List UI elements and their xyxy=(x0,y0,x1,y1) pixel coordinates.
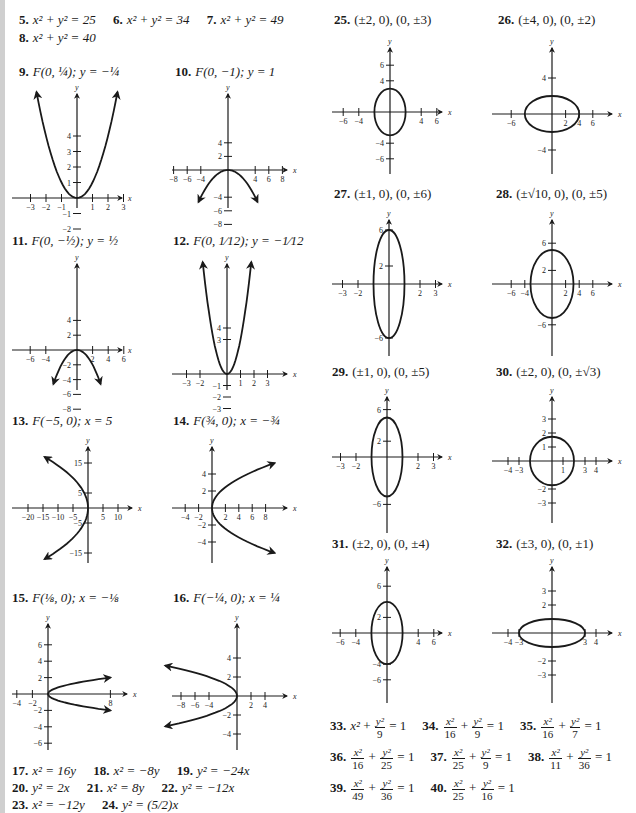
y-axis-label: y xyxy=(386,209,391,218)
y-tick-label: 3 xyxy=(542,587,546,596)
graph-svg: xy−4−3134−3−2123 xyxy=(490,385,620,525)
y-tick-label: 2 xyxy=(379,262,383,271)
x-tick-label: −4 xyxy=(197,175,206,184)
graph-31: xy−6−446−6−426 xyxy=(330,555,450,705)
y-tick-label: 2 xyxy=(67,331,71,340)
x-tick-label: −6 xyxy=(26,355,35,364)
x-tick-label: 2 xyxy=(249,701,253,710)
graph-label-30: 30.(±2, 0), (0, ±√3) xyxy=(496,364,600,380)
answer-number: 17. xyxy=(12,763,28,778)
x-tick-label: 4 xyxy=(594,638,598,647)
fraction: y²9 xyxy=(375,715,385,740)
graph-label-9: 9.F(0, ¼); y = −¼ xyxy=(19,64,119,80)
fraction: x²16 xyxy=(351,746,364,771)
equation-answer: 39.x²49 + y²36 = 1 xyxy=(330,780,414,795)
y-tick-label: −6 xyxy=(372,676,381,685)
fraction: x²16 xyxy=(541,715,554,740)
answer-number: 5. xyxy=(19,12,29,27)
graph-svg: xy−8−6−4468−8−6−424 xyxy=(170,82,295,210)
label-number: 29. xyxy=(332,364,348,379)
x-tick-label: 8 xyxy=(280,175,284,184)
equation-answer: 36.x²16 + y²25 = 1 xyxy=(330,749,414,764)
label-number: 14. xyxy=(173,413,189,428)
x-axis-label: x xyxy=(447,453,452,462)
graph-label-29: 29.(±1, 0), (0, ±5) xyxy=(332,364,429,380)
label-text: (±2, 0), (0, ±√3) xyxy=(516,364,600,379)
x-axis-label: x xyxy=(292,692,297,701)
label-number: 31. xyxy=(332,536,348,551)
y-tick-label: 4 xyxy=(217,324,221,333)
y-tick-label: 2 xyxy=(542,429,546,438)
x-axis-label: x xyxy=(292,370,297,379)
y-axis-label: y xyxy=(234,613,239,622)
answer-text: x² = −12y xyxy=(32,797,84,812)
label-number: 28. xyxy=(496,186,512,201)
answer-number: 24. xyxy=(102,797,118,812)
x-tick-label: 1 xyxy=(91,203,95,212)
label-number: 12. xyxy=(173,233,189,248)
x-tick-label: −4 xyxy=(13,699,22,708)
x-tick-label: 10 xyxy=(114,513,122,522)
x-tick-label: 4 xyxy=(577,289,581,298)
y-tick-label: 6 xyxy=(380,61,384,70)
x-tick-label: 5 xyxy=(101,513,105,522)
graph-svg: xy−3−2−1123−2−11234 xyxy=(10,82,130,210)
label-text: (±1, 0), (0, ±6) xyxy=(354,186,431,201)
y-tick-label: 5 xyxy=(78,489,82,498)
y-tick-label: 2 xyxy=(38,674,42,683)
y-tick-label: 2 xyxy=(227,673,231,682)
x-tick-label: 2 xyxy=(252,379,256,388)
y-tick-label: −6 xyxy=(213,207,222,216)
graph-svg: xy−4−22468−4−224 xyxy=(170,435,295,565)
graph-svg: xy−3−223−626 xyxy=(330,385,450,535)
graph-label-26: 26.(±4, 0), (0, ±2) xyxy=(498,12,595,28)
x-tick-label: 4 xyxy=(253,175,257,184)
y-axis-label: y xyxy=(549,556,554,565)
x-tick-label: −6 xyxy=(507,289,516,298)
x-tick-label: −15 xyxy=(37,513,50,522)
x-tick-label: 8 xyxy=(108,699,112,708)
answers-39-40: 39.x²49 + y²36 = 140.x²25 + y²16 = 1 xyxy=(330,775,531,802)
graph-label-31: 31.(±2, 0), (0, ±4) xyxy=(332,536,429,552)
x-tick-label: 4 xyxy=(419,117,423,126)
x-tick-label: 3 xyxy=(434,289,438,298)
x-tick-label: 3 xyxy=(583,466,587,475)
y-axis-label: y xyxy=(549,386,554,395)
y-tick-label: 2 xyxy=(542,601,546,610)
answers-17-19: 17.x² = 16y 18.x² = −8y 19.y² = −24x xyxy=(12,763,263,779)
y-tick-label: −4 xyxy=(213,193,222,202)
graph-27: xy−3−223−626 xyxy=(330,208,450,358)
y-tick-label: 3 xyxy=(67,148,71,157)
graph-svg: xy−3−2123−3−2−134 xyxy=(170,252,295,392)
label-text: F(−¼, 0); x = ¼ xyxy=(193,590,280,605)
x-axis-label: x xyxy=(127,194,132,203)
x-tick-label: −4 xyxy=(352,638,361,647)
label-text: (±√10, 0), (0, ±5) xyxy=(516,186,607,201)
y-tick-label: 2 xyxy=(377,437,381,446)
answer-text: y² = −24x xyxy=(197,763,249,778)
y-axis-label: y xyxy=(85,436,90,445)
graph-25: xy−6−446−6−446 xyxy=(330,36,450,176)
y-tick-label: −4 xyxy=(222,730,231,739)
graph-label-25: 25.(±2, 0), (0, ±3) xyxy=(334,12,431,28)
fraction: x²25 xyxy=(452,777,465,802)
x-tick-label: −6 xyxy=(183,175,192,184)
graph-label-27: 27.(±1, 0), (0, ±6) xyxy=(334,186,431,202)
label-number: 30. xyxy=(496,364,512,379)
x-tick-label: 8 xyxy=(264,513,268,522)
y-tick-label: −8 xyxy=(62,405,71,414)
x-axis-label: x xyxy=(617,280,622,289)
answer-number: 8. xyxy=(19,30,29,45)
answer-number: 7. xyxy=(207,12,217,27)
y-tick-label: −1 xyxy=(62,210,71,219)
y-axis-label: y xyxy=(224,253,229,262)
y-tick-label: −2 xyxy=(62,225,71,234)
fraction: x²25 xyxy=(452,746,465,771)
y-tick-label: 1 xyxy=(67,179,71,188)
x-tick-label: 4 xyxy=(416,638,420,647)
y-tick-label: 4 xyxy=(380,77,384,86)
x-tick-label: −2 xyxy=(196,379,205,388)
graph-label-32: 32.(±3, 0), (0, ±1) xyxy=(496,536,593,552)
graph-26: xy−6246−44 xyxy=(490,36,620,176)
y-axis-label: y xyxy=(384,556,389,565)
